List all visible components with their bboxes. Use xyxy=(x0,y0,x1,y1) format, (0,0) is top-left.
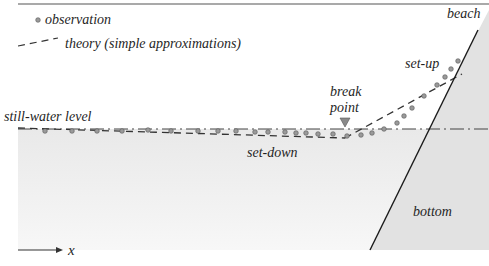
observation-point xyxy=(294,131,299,136)
observation-point xyxy=(304,131,309,136)
observation-point xyxy=(266,130,271,135)
beach-label: beach xyxy=(447,6,480,21)
observation-point xyxy=(316,132,321,137)
break-point-label-line2: point xyxy=(329,100,360,115)
x-axis-label: x xyxy=(67,242,75,258)
water-region xyxy=(18,129,436,250)
observation-point xyxy=(435,83,440,88)
observation-point xyxy=(169,129,174,134)
observation-point xyxy=(443,75,448,80)
observation-point xyxy=(382,127,387,132)
still-water-level-label: still-water level xyxy=(4,109,92,124)
legend-observation-marker xyxy=(36,18,41,23)
observation-point xyxy=(146,128,151,133)
observation-points xyxy=(43,59,461,139)
break-point-marker xyxy=(340,118,350,127)
observation-point xyxy=(70,129,75,134)
set-up-label: set-up xyxy=(405,56,439,71)
observation-point xyxy=(402,114,407,119)
observation-point xyxy=(43,129,48,134)
observation-point xyxy=(196,129,201,134)
break-point-label-line1: break xyxy=(330,84,362,99)
observation-point xyxy=(456,59,461,64)
observation-point xyxy=(359,133,364,138)
observation-point xyxy=(234,129,239,134)
observation-point xyxy=(331,132,336,137)
observation-point xyxy=(95,129,100,134)
legend-theory-line xyxy=(18,38,58,46)
observation-point xyxy=(216,129,221,134)
observation-point xyxy=(283,130,288,135)
observation-point xyxy=(120,129,125,134)
observation-point xyxy=(395,121,400,126)
set-down-label: set-down xyxy=(247,145,298,160)
observation-point xyxy=(410,106,415,111)
observation-point xyxy=(422,94,427,99)
observation-point xyxy=(253,130,258,135)
observation-point xyxy=(449,67,454,72)
observation-point xyxy=(345,134,350,139)
legend-theory-label: theory (simple approximations) xyxy=(65,36,241,52)
legend-observation-label: observation xyxy=(45,12,111,27)
wave-setup-diagram: observation theory (simple approximation… xyxy=(0,0,489,266)
bottom-label: bottom xyxy=(413,204,452,219)
observation-point xyxy=(370,131,375,136)
